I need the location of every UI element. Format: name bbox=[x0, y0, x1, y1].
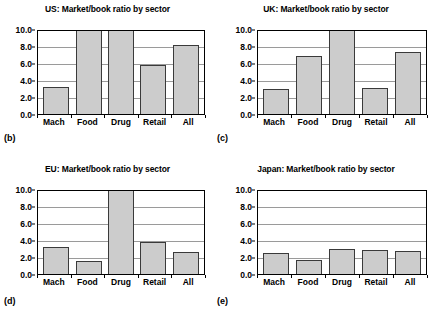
y-tick-label: 6.0 bbox=[240, 59, 252, 69]
chart-panel-us: US: Market/book ratio by sector 0.02.04.… bbox=[0, 0, 215, 160]
bar-retail bbox=[140, 65, 166, 114]
x-tick-label: Drug bbox=[106, 117, 136, 127]
y-tick-label: 4.0 bbox=[240, 236, 252, 246]
bar-mach bbox=[43, 247, 69, 274]
y-tick-mark bbox=[32, 275, 35, 276]
plot-area-japan bbox=[257, 190, 427, 275]
bar-food bbox=[76, 261, 102, 274]
x-tick-label: Mach bbox=[39, 117, 69, 127]
y-tick-mark bbox=[252, 30, 255, 31]
y-tick-label: 8.0 bbox=[20, 42, 32, 52]
y-axis-japan: 0.02.04.06.08.010.0 bbox=[215, 190, 255, 275]
y-tick-label: 8.0 bbox=[20, 202, 32, 212]
bar-mach bbox=[263, 253, 289, 274]
chart-panel-eu: EU: Market/book ratio by sector 0.02.04.… bbox=[0, 160, 215, 322]
bar-drug bbox=[329, 249, 355, 275]
x-tick-label: Mach bbox=[259, 117, 289, 127]
y-tick-mark bbox=[32, 81, 35, 82]
x-axis-labels-uk: MachFoodDrugRetailAll bbox=[257, 117, 427, 127]
y-tick-label: 4.0 bbox=[240, 76, 252, 86]
y-tick-mark bbox=[32, 258, 35, 259]
bar-drug bbox=[108, 30, 134, 114]
x-tick-label: All bbox=[395, 117, 425, 127]
x-tick-label: Food bbox=[293, 117, 323, 127]
y-tick-label: 0.0 bbox=[20, 270, 32, 280]
bar-drug bbox=[329, 30, 355, 114]
y-tick-mark bbox=[252, 64, 255, 65]
y-tick-label: 2.0 bbox=[240, 93, 252, 103]
plot-area-uk bbox=[257, 30, 427, 115]
y-tick-label: 6.0 bbox=[240, 219, 252, 229]
bar-all bbox=[395, 251, 421, 274]
y-tick-label: 10.0 bbox=[15, 25, 32, 35]
y-tick-label: 6.0 bbox=[20, 219, 32, 229]
panel-letter-d: (d) bbox=[4, 296, 16, 306]
y-axis-us: 0.02.04.06.08.010.0 bbox=[0, 30, 35, 115]
y-axis-uk: 0.02.04.06.08.010.0 bbox=[215, 30, 255, 115]
y-tick-label: 10.0 bbox=[15, 185, 32, 195]
x-tick-label: Mach bbox=[39, 277, 69, 287]
chart-title-eu: EU: Market/book ratio by sector bbox=[0, 164, 215, 174]
x-tick-label: Drug bbox=[106, 277, 136, 287]
x-tick-label: Mach bbox=[259, 277, 289, 287]
x-tick-label: Food bbox=[293, 277, 323, 287]
bar-mach bbox=[263, 89, 289, 115]
x-tick-mark bbox=[427, 115, 428, 118]
y-tick-label: 10.0 bbox=[235, 25, 252, 35]
chart-title-japan: Japan: Market/book ratio by sector bbox=[215, 164, 437, 174]
bar-retail bbox=[362, 250, 388, 274]
x-tick-label: Retail bbox=[361, 277, 391, 287]
y-tick-mark bbox=[252, 207, 255, 208]
bar-all bbox=[173, 252, 199, 274]
bar-food bbox=[296, 56, 322, 114]
bar-retail bbox=[140, 242, 166, 274]
y-tick-mark bbox=[252, 81, 255, 82]
y-tick-label: 0.0 bbox=[20, 110, 32, 120]
y-tick-mark bbox=[252, 241, 255, 242]
plot-area-us bbox=[37, 30, 205, 115]
figure-panel-grid: US: Market/book ratio by sector 0.02.04.… bbox=[0, 0, 437, 322]
bar-mach bbox=[43, 87, 69, 114]
y-tick-label: 2.0 bbox=[20, 93, 32, 103]
bar-series-us bbox=[38, 31, 204, 114]
y-tick-mark bbox=[252, 275, 255, 276]
y-axis-eu: 0.02.04.06.08.010.0 bbox=[0, 190, 35, 275]
x-axis-labels-eu: MachFoodDrugRetailAll bbox=[37, 277, 205, 287]
y-tick-label: 2.0 bbox=[20, 253, 32, 263]
y-tick-label: 0.0 bbox=[240, 110, 252, 120]
x-tick-mark bbox=[427, 275, 428, 278]
y-tick-mark bbox=[32, 64, 35, 65]
y-tick-mark bbox=[32, 98, 35, 99]
bar-all bbox=[173, 45, 199, 114]
panel-letter-b: (b) bbox=[4, 133, 16, 143]
x-tick-label: Retail bbox=[361, 117, 391, 127]
y-tick-label: 2.0 bbox=[240, 253, 252, 263]
x-axis-labels-us: MachFoodDrugRetailAll bbox=[37, 117, 205, 127]
y-tick-mark bbox=[32, 224, 35, 225]
x-axis-labels-japan: MachFoodDrugRetailAll bbox=[257, 277, 427, 287]
y-tick-label: 10.0 bbox=[235, 185, 252, 195]
bar-food bbox=[76, 30, 102, 114]
chart-title-us: US: Market/book ratio by sector bbox=[0, 4, 215, 14]
bar-series-eu bbox=[38, 191, 204, 274]
bar-food bbox=[296, 260, 322, 274]
x-tick-label: Drug bbox=[327, 277, 357, 287]
x-tick-label: Retail bbox=[140, 277, 170, 287]
bar-series-japan bbox=[258, 191, 426, 274]
y-tick-mark bbox=[252, 98, 255, 99]
panel-letter-c: (c) bbox=[217, 133, 228, 143]
y-tick-mark bbox=[252, 190, 255, 191]
x-tick-mark bbox=[205, 115, 206, 118]
y-tick-mark bbox=[32, 30, 35, 31]
bar-series-uk bbox=[258, 31, 426, 114]
chart-panel-uk: UK: Market/book ratio by sector 0.02.04.… bbox=[215, 0, 437, 160]
y-tick-mark bbox=[252, 258, 255, 259]
y-tick-label: 4.0 bbox=[20, 76, 32, 86]
bar-retail bbox=[362, 88, 388, 114]
y-tick-label: 4.0 bbox=[20, 236, 32, 246]
x-tick-label: Food bbox=[72, 117, 102, 127]
plot-area-eu bbox=[37, 190, 205, 275]
chart-panel-japan: Japan: Market/book ratio by sector 0.02.… bbox=[215, 160, 437, 322]
y-tick-label: 0.0 bbox=[240, 270, 252, 280]
y-tick-mark bbox=[252, 224, 255, 225]
